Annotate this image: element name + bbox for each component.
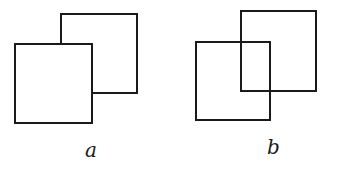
figure-a-front-square: [15, 44, 92, 123]
figure-b-square-1: [196, 42, 270, 120]
figure-b: [196, 11, 316, 120]
figure-a: [15, 14, 137, 123]
figure-a-label: a: [85, 140, 97, 160]
figure-b-label: b: [267, 137, 280, 157]
diagram-canvas: [0, 0, 337, 171]
figure-b-square-2: [241, 11, 316, 91]
